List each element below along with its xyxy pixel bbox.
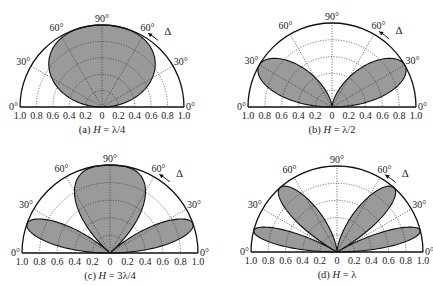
radial-tick-label: 0.8 (174, 256, 187, 267)
delta-symbol: Δ (164, 25, 171, 37)
delta-symbol: Δ (395, 24, 402, 36)
radial-tick-label: 1.0 (242, 110, 255, 121)
radial-tick-label: 0.6 (376, 110, 389, 121)
polar-plot-a: 0°30°60°90°60°30°0°1.00.80.60.40.200.20.… (9, 13, 195, 136)
radial-tick-label: 1.0 (16, 256, 29, 267)
radial-tick-label: 0.4 (359, 110, 372, 121)
angle-label: 60° (283, 164, 297, 175)
radial-tick-label: 1.0 (410, 110, 423, 121)
radial-tick-label: 0.8 (259, 110, 272, 121)
radial-tick-label: 0.8 (30, 110, 43, 121)
polar-plot-d: 0°30°60°90°60°30°0°1.00.80.60.40.200.20.… (240, 154, 433, 281)
radial-tick-label: 0.2 (121, 256, 134, 267)
angle-label: 30° (187, 199, 201, 210)
radial-tick-label: 1.0 (245, 255, 258, 266)
angle-label: 30° (412, 199, 426, 210)
delta-symbol: Δ (176, 167, 183, 179)
panel-caption: (c) H = 3λ/4 (84, 270, 136, 282)
radial-tick-label: 0.8 (262, 255, 275, 266)
angle-label: 90° (95, 13, 109, 24)
radial-tick-label: 0 (330, 110, 335, 121)
panel-caption: (b) H = λ/2 (309, 124, 356, 136)
radial-tick-label: 0.4 (69, 256, 82, 267)
radial-tick-label: 1.0 (417, 255, 430, 266)
radial-tick-label: 0 (335, 255, 340, 266)
radial-tick-label: 0.4 (292, 110, 305, 121)
angle-label: 30° (244, 55, 258, 66)
radial-tick-label: 0.2 (79, 110, 92, 121)
radial-tick-label: 0.2 (309, 110, 322, 121)
radial-tick-label: 0.4 (296, 255, 309, 266)
radial-tick-label: 0.4 (365, 255, 378, 266)
angle-label: 30° (406, 55, 420, 66)
radial-tick-label: 0.2 (343, 110, 356, 121)
radial-tick-label: 0.6 (279, 255, 292, 266)
radial-tick-label: 1.0 (14, 110, 27, 121)
radial-tick-label: 0 (108, 256, 113, 267)
radial-tick-label: 1.0 (192, 256, 205, 267)
figure: 0°30°60°90°60°30°0°1.00.80.60.40.200.20.… (0, 0, 433, 286)
angle-label: 60° (141, 22, 155, 33)
radial-tick-label: 0.8 (393, 110, 406, 121)
angle-label: 30° (248, 199, 262, 210)
angle-label: 90° (103, 153, 117, 164)
panel-caption: (a) H = λ/4 (79, 124, 126, 136)
angle-label: 30° (16, 56, 30, 67)
radial-tick-label: 1.0 (178, 110, 191, 121)
radial-tick-label: 0.2 (86, 256, 99, 267)
angle-label: 60° (50, 22, 64, 33)
radial-tick-label: 0.6 (145, 110, 158, 121)
angle-label: 90° (325, 11, 339, 22)
radial-tick-label: 0.2 (314, 255, 327, 266)
radial-tick-label: 0.6 (382, 255, 395, 266)
angle-label: 60° (55, 163, 69, 174)
radial-tick-label: 0 (100, 110, 105, 121)
radial-tick-label: 0.8 (33, 256, 46, 267)
radial-tick-label: 0.6 (275, 110, 288, 121)
panel-caption: (d) H = λ (318, 269, 358, 281)
radial-tick-label: 0.6 (157, 256, 170, 267)
angle-label: 60° (152, 163, 166, 174)
radial-tick-label: 0.4 (139, 256, 152, 267)
angle-label: 60° (372, 20, 386, 31)
angle-label: 30° (19, 199, 33, 210)
radial-tick-label: 0.8 (400, 255, 413, 266)
radial-tick-label: 0.4 (129, 110, 142, 121)
angle-label: 60° (378, 164, 392, 175)
angle-label: 30° (174, 56, 188, 67)
delta-symbol: Δ (402, 167, 409, 179)
radial-tick-label: 0.4 (63, 110, 76, 121)
angle-label: 90° (330, 154, 344, 165)
polar-plot-b: 0°30°60°90°60°30°0°1.00.80.60.40.200.20.… (237, 11, 427, 136)
radial-tick-label: 0.8 (161, 110, 174, 121)
radial-tick-label: 0.2 (348, 255, 361, 266)
radial-tick-label: 0.6 (51, 256, 64, 267)
polar-plot-c: 0°30°60°90°60°30°0°1.00.80.60.40.200.20.… (11, 153, 209, 282)
radial-tick-label: 0.6 (47, 110, 60, 121)
radial-tick-label: 0.2 (112, 110, 125, 121)
angle-label: 60° (279, 20, 293, 31)
